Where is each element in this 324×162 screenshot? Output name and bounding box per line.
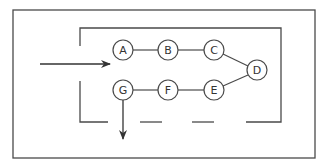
edge-c-d xyxy=(223,54,248,66)
node-c-label: C xyxy=(210,44,218,57)
edges xyxy=(133,50,248,90)
node-b: B xyxy=(158,40,178,60)
process-flow-diagram: A B C D E F G xyxy=(0,0,324,162)
inner-boundary-left-lower xyxy=(80,81,108,122)
node-a: A xyxy=(113,40,133,60)
node-g-label: G xyxy=(119,84,128,97)
node-f: F xyxy=(158,80,178,100)
node-a-label: A xyxy=(119,44,127,57)
diagram-canvas: A B C D E F G xyxy=(0,0,324,162)
node-e: E xyxy=(204,80,224,100)
node-b-label: B xyxy=(164,44,172,57)
node-f-label: F xyxy=(165,84,171,97)
node-c: C xyxy=(204,40,224,60)
node-g: G xyxy=(113,80,133,100)
node-d: D xyxy=(247,60,267,80)
node-e-label: E xyxy=(211,84,218,97)
node-d-label: D xyxy=(253,64,261,77)
edge-d-e xyxy=(223,75,248,86)
